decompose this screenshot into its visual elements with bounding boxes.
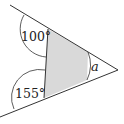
angle-label-a: a xyxy=(91,59,99,74)
angle-label-top: 100° xyxy=(21,29,51,44)
angle-label-bottom: 155° xyxy=(15,86,45,101)
angle-diagram: 100° 155° a xyxy=(0,0,124,124)
